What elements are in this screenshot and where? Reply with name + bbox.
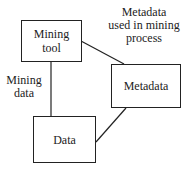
node-label: Mining <box>34 27 69 41</box>
edge-metadata-data <box>96 108 126 142</box>
edge-label-line: data <box>4 87 44 100</box>
node-metadata: Metadata <box>111 64 181 108</box>
edge-label-metadata-used: Metadata used in mining process <box>98 6 190 45</box>
edge-label-mining-data: Mining data <box>4 74 44 100</box>
node-mining-tool: Mining tool <box>21 20 82 62</box>
node-label: Metadata <box>124 79 169 93</box>
edge-label-line: process <box>98 32 190 45</box>
node-label: Data <box>53 133 76 147</box>
node-data: Data <box>33 116 96 163</box>
node-label: tool <box>34 41 69 55</box>
